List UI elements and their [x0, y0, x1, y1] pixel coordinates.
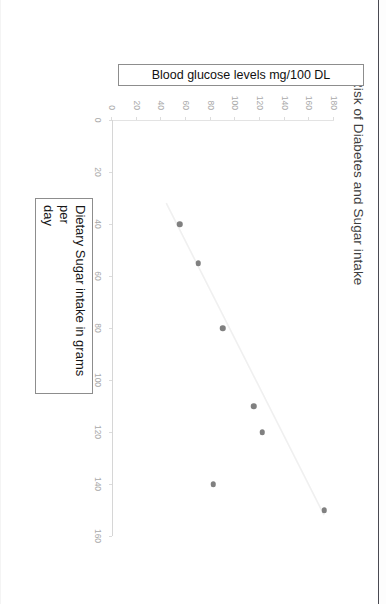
y-axis-title-wrapper: Blood glucose levels mg/100 DL: [118, 64, 364, 86]
x-tick-label: 160: [93, 529, 103, 543]
y-tick-label: 0: [107, 105, 117, 110]
y-tick-label: 160: [304, 96, 314, 110]
x-tick-label: 100: [93, 373, 103, 387]
data-point: [220, 325, 226, 331]
x-tick-label: 140: [93, 477, 103, 491]
y-tick-label: 80: [206, 101, 216, 110]
page-right-border: [378, 0, 379, 604]
scanned-page: Risk of Diabetes and Sugar intake 020406…: [0, 0, 386, 604]
data-point: [196, 260, 202, 266]
data-point: [321, 507, 327, 513]
y-axis-title: Blood glucose levels mg/100 DL: [118, 64, 364, 86]
x-tick-label: 60: [93, 271, 103, 280]
data-point: [251, 403, 257, 409]
x-tick-label: 120: [93, 425, 103, 439]
x-tick-label: 80: [93, 323, 103, 332]
y-tick-label: 120: [255, 96, 265, 110]
data-point: [177, 221, 183, 227]
plot-area: 020406080100120140160 020406080100120140…: [112, 120, 334, 536]
data-point: [210, 481, 216, 487]
data-point: [260, 429, 266, 435]
x-tick-label: 0: [93, 118, 103, 123]
y-tick-label: 140: [280, 96, 290, 110]
x-axis-title-line2: day: [41, 205, 56, 226]
x-axis-title-line1: Dietary Sugar intake in grams per: [57, 205, 88, 376]
y-tick-label: 60: [181, 101, 191, 110]
chart-title: Risk of Diabetes and Sugar intake: [351, 48, 366, 568]
rotated-chart-container: Risk of Diabetes and Sugar intake 020406…: [40, 48, 370, 568]
y-tick-label: 20: [132, 101, 142, 110]
y-tick-label: 100: [230, 96, 240, 110]
y-tick-label: 180: [329, 96, 339, 110]
page-left-edge: [0, 0, 1, 604]
chart-area: Risk of Diabetes and Sugar intake 020406…: [40, 48, 370, 568]
x-tick-label: 40: [93, 219, 103, 228]
x-tick-mark: [109, 536, 112, 537]
page-right-margin: [379, 0, 386, 604]
x-tick-label: 20: [93, 167, 103, 176]
y-tick-label: 40: [156, 101, 166, 110]
x-axis-title: Dietary Sugar intake in grams per day: [35, 198, 93, 394]
